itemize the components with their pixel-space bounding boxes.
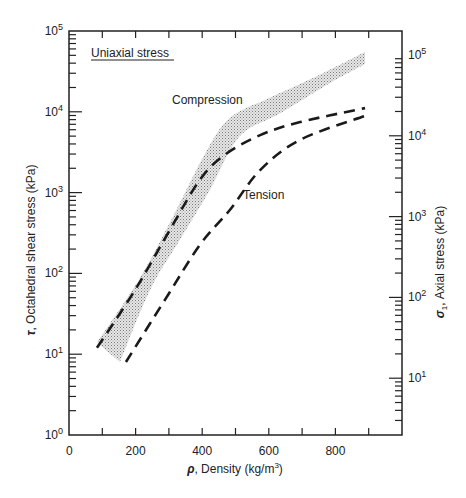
y2-tick-label: 105 <box>408 46 426 62</box>
annotation-uniaxial-stress: Uniaxial stress <box>91 46 169 60</box>
y2-axis-text: , Axial stress (kPa) <box>433 206 447 306</box>
y-tick-label: 104 <box>45 103 63 119</box>
y2-tick-label: 101 <box>408 369 426 385</box>
plot-frame <box>69 31 402 435</box>
x-tick-label: 800 <box>325 444 345 458</box>
annotation-tension: Tension <box>243 188 284 202</box>
y-tick-label: 102 <box>45 264 63 280</box>
x-axis-label: ρ, Density (kg/m3) <box>186 461 283 476</box>
annotation-compression: Compression <box>172 93 243 107</box>
x-tick-label: 200 <box>126 444 146 458</box>
y2-tick-label: 102 <box>408 288 426 304</box>
y-axis-label: τ, Octahedral shear stress (kPa) <box>24 165 38 336</box>
x-axis-end: ) <box>279 462 283 476</box>
y-axis-ticks: 100101102103104105 <box>45 22 82 442</box>
y-axis-text: , Octahedral shear stress (kPa) <box>24 165 38 331</box>
y2-tick-label: 103 <box>408 208 426 224</box>
y-tick-label: 101 <box>45 345 63 361</box>
chart: 0200400600800 100101102103104105 1011021… <box>0 0 466 498</box>
x-axis-text: , Density (kg/m <box>194 462 274 476</box>
y2-axis-label: σ1, Axial stress (kPa) <box>433 206 449 318</box>
y-tick-label: 105 <box>45 22 63 38</box>
x-tick-label: 0 <box>66 444 73 458</box>
x-tick-label: 400 <box>192 444 212 458</box>
y-tick-label: 100 <box>45 426 63 442</box>
y2-axis-ticks: 101102103104105 <box>389 46 426 420</box>
y2-tick-label: 104 <box>408 127 426 143</box>
x-axis-symbol: ρ <box>186 462 194 476</box>
x-tick-label: 600 <box>259 444 279 458</box>
y-tick-label: 103 <box>45 184 63 200</box>
